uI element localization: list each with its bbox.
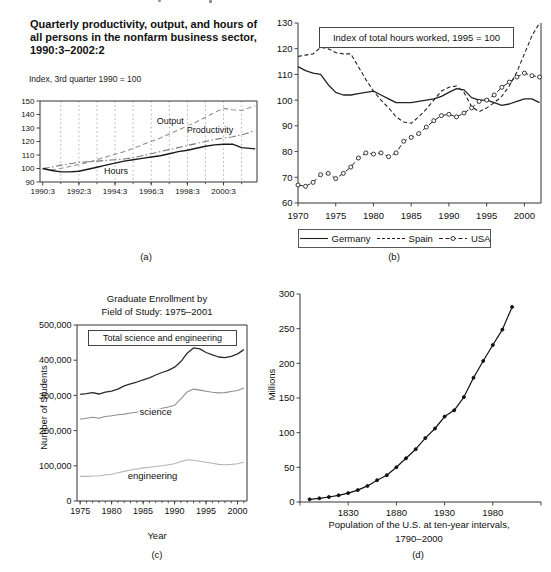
data-point-marker xyxy=(327,496,330,499)
y-tick-label: 250 xyxy=(279,323,295,334)
y-tick-label: 70 xyxy=(282,172,293,183)
data-point-marker xyxy=(424,125,428,129)
series-label-hours: Hours xyxy=(104,166,129,176)
data-point-marker xyxy=(472,376,475,379)
legend-label: Germany xyxy=(332,233,371,244)
x-tick-label: 1880 xyxy=(386,507,407,518)
chart-b-box-title: Index of total hours worked, 1995 = 100 xyxy=(319,27,514,48)
x-tick-label: 1994:3 xyxy=(103,187,128,196)
y-tick-label: 150 xyxy=(279,392,295,403)
series-line-total-science-and-engineering xyxy=(80,348,244,394)
data-point-marker xyxy=(409,135,413,139)
x-tick-label: 1985 xyxy=(133,506,153,516)
chart-d-caption: (d) xyxy=(388,549,448,560)
x-tick-label: 1998:3 xyxy=(175,187,200,196)
chart-c-caption: (c) xyxy=(127,549,187,560)
legend-item-usa: USA xyxy=(438,233,491,244)
x-tick-label: 1996:3 xyxy=(139,187,164,196)
data-point-marker xyxy=(439,114,443,118)
x-tick-label: 2000:3 xyxy=(211,187,236,196)
x-tick-label: 1930 xyxy=(434,507,455,518)
data-point-marker xyxy=(395,466,398,469)
series-label-productivity: Productivity xyxy=(187,125,234,135)
y-tick-label: 0 xyxy=(289,496,294,507)
y-tick-label: 110 xyxy=(277,69,292,80)
data-point-marker xyxy=(364,151,368,155)
data-point-marker xyxy=(356,156,360,160)
data-point-marker xyxy=(304,184,308,188)
data-point-marker xyxy=(366,484,369,487)
x-tick-label: 1990:3 xyxy=(30,187,55,196)
data-point-marker xyxy=(530,74,534,78)
data-point-marker xyxy=(349,165,353,169)
y-tick-label: 100,000 xyxy=(39,461,72,471)
y-tick-label: 130 xyxy=(277,17,293,28)
chart-a-caption: (a) xyxy=(116,251,176,262)
y-tick-label: 100 xyxy=(279,427,295,438)
y-tick-label: 0 xyxy=(66,496,71,506)
data-point-marker xyxy=(491,344,494,347)
data-point-marker xyxy=(356,489,359,492)
cropped-text-remnant xyxy=(158,0,161,2)
legend-item-germany: Germany xyxy=(299,233,371,244)
data-point-marker xyxy=(376,479,379,482)
y-tick-label: 100 xyxy=(277,95,293,106)
data-point-marker xyxy=(501,328,504,331)
y-tick-label: 300,000 xyxy=(39,391,72,401)
chart-c-xlabel: Year xyxy=(107,530,207,541)
data-point-marker xyxy=(387,155,391,159)
data-point-marker xyxy=(511,305,514,308)
data-point-marker xyxy=(296,183,300,187)
data-point-marker xyxy=(318,497,321,500)
series-label-output: Output xyxy=(157,116,185,126)
y-tick-label: 400,000 xyxy=(39,355,72,365)
document-page: Quarterly productivity, output, and hour… xyxy=(0,0,551,572)
chart-c-ylabel: Number of Students xyxy=(38,360,49,456)
data-point-marker xyxy=(334,177,338,181)
data-point-marker xyxy=(477,99,481,103)
data-point-marker xyxy=(341,171,345,175)
legend-marker xyxy=(451,237,455,241)
data-point-marker xyxy=(453,409,456,412)
data-point-marker xyxy=(394,151,398,155)
chart-d-caption-line: Population of the U.S. at ten-year inter… xyxy=(288,518,550,532)
y-tick-label: 200 xyxy=(279,358,295,369)
data-point-marker xyxy=(492,93,496,97)
y-tick-label: 120 xyxy=(277,43,293,54)
data-point-marker xyxy=(447,112,451,116)
x-tick-label: 1980 xyxy=(102,506,122,516)
data-point-marker xyxy=(462,111,466,115)
data-point-marker xyxy=(515,75,519,79)
chart-c-title-line: Field of Study: 1975–2001 xyxy=(57,306,257,319)
chart-b-legend: Germany Spain USA xyxy=(298,229,491,248)
germany-line-sample-icon xyxy=(299,234,329,243)
y-tick-label: 110 xyxy=(22,151,35,160)
data-point-marker xyxy=(319,173,323,177)
data-point-marker xyxy=(462,396,465,399)
data-point-marker xyxy=(443,415,446,418)
x-tick-label: 1975 xyxy=(70,506,90,516)
x-tick-label: 1830 xyxy=(338,507,359,518)
x-tick-label: 1995 xyxy=(476,210,497,221)
y-tick-label: 60 xyxy=(282,197,293,208)
data-point-marker xyxy=(424,437,427,440)
legend-label: Spain xyxy=(409,233,433,244)
data-point-marker xyxy=(414,448,417,451)
data-point-marker xyxy=(507,80,511,84)
chart-c-title-line: Graduate Enrollment by xyxy=(57,293,257,306)
chart-d-caption-text: Population of the U.S. at ten-year inter… xyxy=(288,518,550,546)
data-point-marker xyxy=(434,427,437,430)
x-tick-label: 1990 xyxy=(165,506,185,516)
x-tick-label: 1995 xyxy=(196,506,216,516)
data-point-marker xyxy=(500,85,504,89)
x-tick-label: 1970 xyxy=(287,210,308,221)
data-point-marker xyxy=(326,171,330,175)
data-point-marker xyxy=(417,132,421,136)
x-tick-label: 1980 xyxy=(363,210,384,221)
x-tick-label: 2000 xyxy=(228,506,248,516)
chart-b-caption: (b) xyxy=(364,251,424,262)
y-tick-label: 300 xyxy=(279,288,295,299)
x-tick-label: 1992:3 xyxy=(67,187,92,196)
y-tick-label: 140 xyxy=(21,110,35,119)
chart-d-plot: 1830188019301980050100150200250300 xyxy=(275,288,551,518)
